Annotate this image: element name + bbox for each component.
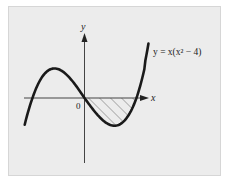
x-axis-label: x [150,92,156,103]
y-axis-label: y [80,21,86,32]
shaded-region [45,98,190,133]
y-axis-arrow-icon [82,33,88,42]
function-annotation: y = x(x² − 4) [153,47,201,58]
x-axis-arrow-icon [140,95,149,101]
cubic-graph: y x 0 y = x(x² − 4) [0,0,228,180]
origin-label: 0 [76,101,81,111]
curve [25,43,149,125]
